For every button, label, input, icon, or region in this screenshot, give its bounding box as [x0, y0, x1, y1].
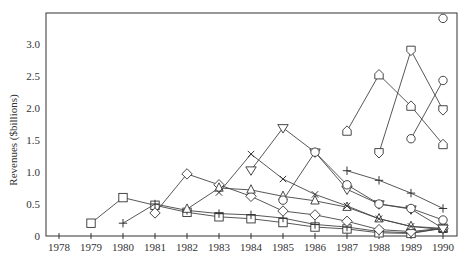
pentagon-up-marker [375, 70, 383, 79]
circle-marker [311, 148, 319, 156]
circle-marker [279, 196, 287, 204]
x-tick-label: 1983 [208, 241, 231, 253]
revenue-line-chart: Revenues ($billions) 1978197919801981198… [0, 0, 468, 263]
series-series-l [439, 14, 447, 22]
x-tick-label: 1979 [80, 241, 103, 253]
y-axis-title: Revenues ($billions) [7, 94, 20, 186]
series-line [411, 80, 443, 138]
circle-marker [439, 14, 447, 22]
triangle-up-marker [247, 185, 255, 193]
x-tick-label: 1984 [240, 241, 263, 253]
y-tick-label: 2.0 [26, 102, 40, 114]
series-line [155, 174, 443, 232]
x-tick-label: 1987 [336, 241, 359, 253]
circle-marker [407, 204, 415, 212]
diamond-marker [182, 169, 192, 179]
series-series-a [87, 193, 447, 237]
x-tick-label: 1982 [176, 241, 198, 253]
plus-marker [439, 204, 447, 212]
series-line [347, 171, 443, 209]
plot-frame [46, 13, 457, 236]
triangle-down-marker [246, 167, 256, 175]
square-marker [119, 193, 127, 201]
plus-marker [343, 167, 351, 175]
diamond-marker [310, 210, 320, 220]
series-line [347, 75, 443, 145]
circle-marker [343, 181, 351, 189]
plus-marker [407, 189, 415, 197]
y-tick-label: 1.0 [26, 166, 40, 178]
x-tick-label: 1985 [272, 241, 295, 253]
circle-marker [375, 200, 383, 208]
circle-marker [439, 216, 447, 224]
pentagon-up-marker [407, 101, 415, 110]
pentagon-down-marker [439, 106, 447, 115]
x-tick-label: 1980 [112, 241, 135, 253]
x-tick-label: 1988 [368, 241, 391, 253]
pentagon-up-marker [343, 126, 351, 135]
x-marker [280, 176, 286, 182]
square-marker [87, 219, 95, 227]
circle-marker [407, 135, 415, 143]
plus-marker [375, 176, 383, 184]
x-tick-label: 1981 [144, 241, 166, 253]
series-series-i [343, 70, 447, 149]
x-tick-label: 1986 [304, 241, 327, 253]
pentagon-down-marker [407, 46, 415, 55]
y-tick-label: 3.0 [26, 38, 40, 50]
y-tick-label: 0 [35, 230, 41, 242]
y-tick-label: 2.5 [26, 70, 40, 82]
chart-series [87, 14, 448, 237]
x-tick-label: 1990 [432, 241, 455, 253]
circle-marker [439, 76, 447, 84]
series-series-h [343, 167, 447, 213]
chart-axes: 1978197919801981198219831984198519861987… [26, 13, 457, 253]
series-line [91, 198, 443, 234]
x-tick-label: 1989 [400, 241, 423, 253]
series-series-c [150, 169, 448, 237]
triangle-down-marker [278, 125, 288, 133]
plus-marker [119, 219, 127, 227]
x-marker [248, 151, 254, 157]
series-line [283, 152, 443, 220]
diamond-marker [278, 206, 288, 216]
pentagon-down-marker [375, 149, 383, 158]
y-tick-label: 0.5 [26, 198, 40, 210]
x-tick-label: 1978 [48, 241, 71, 253]
y-tick-label: 1.5 [26, 134, 40, 146]
